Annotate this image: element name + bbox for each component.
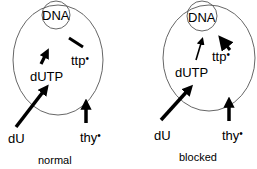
dna-label: DNA: [188, 10, 216, 25]
ttp-to-dna-line: [69, 38, 83, 47]
dutp-to-dna-arrow: [196, 40, 202, 60]
panel-blocked: DNA ttp• dUTP dU thy• blocked: [154, 1, 255, 163]
label-star: •: [226, 49, 230, 60]
du-label: dU: [154, 128, 171, 143]
label-star: •: [97, 130, 101, 141]
label-star: •: [239, 128, 243, 139]
dutp-label: dUTP: [30, 69, 63, 84]
ttp-label: ttp•: [212, 49, 230, 64]
dutp-to-dna-arrow: [41, 52, 47, 64]
label-star: •: [85, 53, 89, 64]
ttp-label: ttp•: [71, 53, 89, 68]
panel-caption: blocked: [179, 151, 217, 163]
diagram-canvas: DNA ttp• dUTP dU thy• normal DNA ttp• dU…: [0, 0, 257, 169]
du-label: dU: [8, 131, 25, 146]
thy-label: thy•: [80, 130, 101, 145]
dna-label: DNA: [42, 8, 70, 23]
dutp-label: dUTP: [175, 65, 208, 80]
du-to-dutp-arrow: [16, 88, 46, 127]
panel-normal: DNA ttp• dUTP dU thy• normal: [8, 1, 103, 166]
panel-caption: normal: [38, 154, 72, 166]
thy-label: thy•: [222, 128, 243, 143]
